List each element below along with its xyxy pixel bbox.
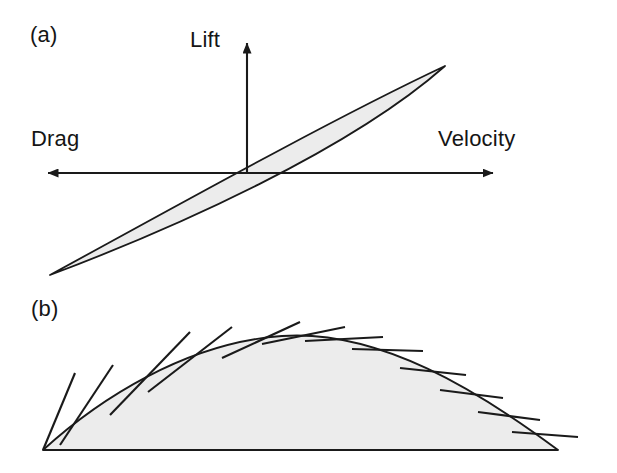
axis-label-velocity: Velocity <box>438 126 515 152</box>
panel-b-group <box>43 322 578 450</box>
axis-label-lift: Lift <box>190 27 220 53</box>
dome-shape <box>43 335 558 450</box>
axis-label-drag: Drag <box>31 126 80 152</box>
panel-a-tag: (a) <box>30 22 58 48</box>
figure-container: (a) (b) Lift Drag Velocity <box>0 0 617 473</box>
panel-a-group <box>48 43 493 275</box>
panel-b-tag: (b) <box>31 296 59 322</box>
figure-canvas <box>0 0 617 473</box>
